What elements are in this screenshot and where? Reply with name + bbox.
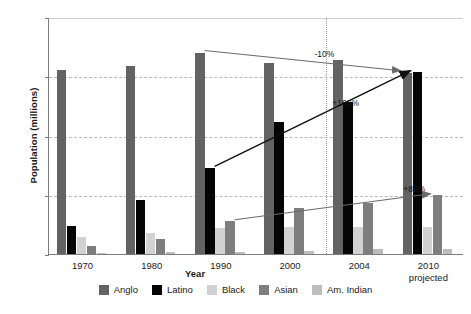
bar-anglo-1990 [195, 53, 205, 254]
bar-asian-1990 [225, 221, 235, 254]
bar-black-2004 [353, 227, 363, 254]
population-bar-chart: Population (millions) Year 05101520 1970… [0, 0, 471, 314]
bar-group [118, 18, 187, 254]
annotation-label-asian-change: +85% [403, 184, 425, 194]
bar-latino-1970 [67, 226, 77, 254]
legend-item-anglo[interactable]: Anglo [99, 284, 138, 295]
plot-area [48, 18, 463, 255]
bar-latino-2010 [413, 72, 423, 254]
legend-label: Latino [167, 284, 193, 295]
bar-anglo-1970 [57, 70, 67, 254]
legend-swatch-icon [312, 285, 322, 295]
bar-black-2010 [423, 227, 433, 254]
legend-item-black[interactable]: Black [207, 284, 245, 295]
legend-label: Black [222, 284, 245, 295]
bar-group [49, 18, 118, 254]
bar-latino-1980 [136, 200, 146, 255]
x-axis-tick-label: 1980 [117, 260, 187, 272]
bar-group [326, 18, 395, 254]
annotation-label-latino-change: +106% [332, 98, 359, 108]
bar-anglo-2004 [333, 60, 343, 254]
y-axis-tick [45, 255, 49, 256]
bar-latino-1990 [205, 168, 215, 255]
bar-black-1980 [146, 233, 156, 254]
bar-anglo-2010 [403, 73, 413, 254]
y-axis-title: Population (millions) [28, 51, 39, 221]
legend-item-am-indian[interactable]: Am. Indian [312, 284, 372, 295]
x-axis-tick-label: 2000 [255, 260, 325, 272]
bar-asian-2004 [363, 203, 373, 254]
bar-black-2000 [284, 227, 294, 254]
annotation-label-anglo-change: -10% [314, 49, 334, 59]
legend-item-latino[interactable]: Latino [152, 284, 193, 295]
bar-am-indian-2004 [373, 249, 383, 254]
legend-label: Asian [274, 284, 298, 295]
bar-am-indian-2010 [443, 249, 453, 254]
legend-label: Am. Indian [327, 284, 372, 295]
bar-asian-2000 [294, 208, 304, 254]
bar-latino-2004 [343, 102, 353, 254]
bar-am-indian-1990 [235, 252, 245, 254]
bar-latino-2000 [274, 122, 284, 254]
bar-asian-2010 [433, 195, 443, 254]
legend-swatch-icon [152, 285, 162, 295]
bar-am-indian-1980 [166, 252, 176, 254]
x-axis-tick-label: 2010projected [393, 260, 463, 284]
legend-item-asian[interactable]: Asian [259, 284, 298, 295]
bar-anglo-1980 [126, 66, 136, 254]
legend-swatch-icon [99, 285, 109, 295]
bar-group [395, 18, 464, 254]
bar-asian-1980 [156, 239, 166, 254]
bar-am-indian-2000 [304, 251, 314, 254]
x-axis-tick-label: 2004 [324, 260, 394, 272]
bar-black-1990 [215, 228, 225, 254]
legend-swatch-icon [259, 285, 269, 295]
legend-swatch-icon [207, 285, 217, 295]
legend-label: Anglo [114, 284, 138, 295]
x-axis-tick-sublabel: projected [393, 272, 463, 284]
bar-group [187, 18, 256, 254]
bar-asian-1970 [87, 246, 97, 254]
bar-am-indian-1970 [97, 253, 107, 254]
x-axis-tick-label: 1990 [186, 260, 256, 272]
chart-legend: AngloLatinoBlackAsianAm. Indian [0, 284, 471, 295]
x-axis-tick-label: 1970 [48, 260, 118, 272]
bar-anglo-2000 [264, 63, 274, 254]
bar-black-1970 [77, 237, 87, 254]
